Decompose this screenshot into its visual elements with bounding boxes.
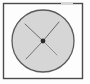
figure-canvas (0, 0, 90, 84)
figure-container (0, 0, 90, 84)
center-point (41, 39, 46, 44)
